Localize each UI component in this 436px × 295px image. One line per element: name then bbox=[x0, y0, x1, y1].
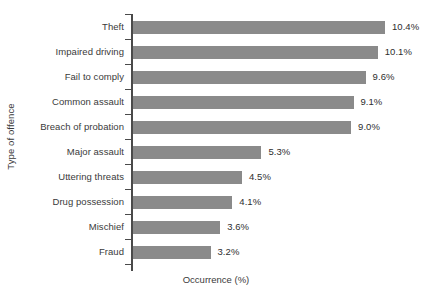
bar-value-label: 10.1% bbox=[385, 45, 412, 59]
bar-value-label: 5.3% bbox=[268, 145, 290, 159]
x-axis-title: Occurrence (%) bbox=[131, 274, 301, 285]
bar-row: 3.6% bbox=[133, 220, 433, 245]
bar-value-label: 10.4% bbox=[392, 20, 419, 34]
bar bbox=[133, 221, 220, 234]
bar bbox=[133, 171, 242, 184]
y-axis-tick-label: Major assault bbox=[20, 146, 124, 158]
y-axis-tick-mark bbox=[125, 14, 131, 15]
bar-value-label: 9.6% bbox=[373, 70, 395, 84]
bar-value-label: 9.1% bbox=[361, 95, 383, 109]
bar-value-label: 9.0% bbox=[358, 120, 380, 134]
y-axis-tick-mark bbox=[125, 39, 131, 40]
y-axis-tick-mark bbox=[125, 214, 131, 215]
bar-row: 4.5% bbox=[133, 170, 433, 195]
y-axis-tick-label: Drug possession bbox=[20, 196, 124, 208]
y-axis-category-labels: TheftImpaired drivingFail to complyCommo… bbox=[20, 20, 124, 270]
y-axis-tick-label: Fraud bbox=[20, 246, 124, 258]
y-axis-tick-mark bbox=[125, 89, 131, 90]
bar-value-label: 3.2% bbox=[218, 245, 240, 259]
y-axis-tick-mark bbox=[125, 189, 131, 190]
bar bbox=[133, 46, 378, 59]
bar-row: 9.1% bbox=[133, 95, 433, 120]
y-axis-tick-mark bbox=[125, 264, 131, 265]
bar bbox=[133, 121, 351, 134]
bar-value-label: 4.1% bbox=[239, 195, 261, 209]
y-axis-title: Type of offence bbox=[0, 0, 20, 272]
bar-row: 4.1% bbox=[133, 195, 433, 220]
x-axis-title-label: Occurrence (%) bbox=[183, 274, 250, 285]
y-axis-tick-mark bbox=[125, 114, 131, 115]
y-axis-title-label: Type of offence bbox=[5, 103, 16, 169]
bar-row: 5.3% bbox=[133, 145, 433, 170]
bar-chart-figure: Type of offence TheftImpaired drivingFai… bbox=[0, 0, 436, 295]
bar-value-label: 3.6% bbox=[227, 220, 249, 234]
y-axis-tick-mark bbox=[125, 164, 131, 165]
bar bbox=[133, 21, 385, 34]
y-axis-tick-mark bbox=[125, 139, 131, 140]
bar bbox=[133, 146, 261, 159]
bar-value-label: 4.5% bbox=[249, 170, 271, 184]
bar-row: 9.0% bbox=[133, 120, 433, 145]
y-axis-tick-label: Impaired driving bbox=[20, 46, 124, 58]
y-axis-tick-mark bbox=[125, 239, 131, 240]
y-axis-tick-mark bbox=[125, 64, 131, 65]
y-axis-tick-label: Theft bbox=[20, 21, 124, 33]
bar-row: 10.4% bbox=[133, 20, 433, 45]
bar-row: 3.2% bbox=[133, 245, 433, 270]
y-axis-tick-label: Uttering threats bbox=[20, 171, 124, 183]
y-axis-tick-label: Fail to comply bbox=[20, 71, 124, 83]
y-axis-tick-label: Common assault bbox=[20, 96, 124, 108]
bar bbox=[133, 96, 354, 109]
bar-row: 9.6% bbox=[133, 70, 433, 95]
bar bbox=[133, 196, 232, 209]
y-axis-tick-label: Mischief bbox=[20, 221, 124, 233]
y-axis-tick-label: Breach of probation bbox=[20, 121, 124, 133]
plot-area: 10.4%10.1%9.6%9.1%9.0%5.3%4.5%4.1%3.6%3.… bbox=[133, 20, 433, 270]
bar bbox=[133, 71, 366, 84]
bar bbox=[133, 246, 211, 259]
bar-row: 10.1% bbox=[133, 45, 433, 70]
